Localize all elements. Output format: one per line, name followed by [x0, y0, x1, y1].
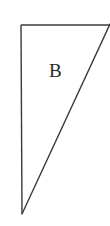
region-label-b: B	[49, 61, 62, 80]
figure-background	[0, 0, 110, 226]
triangle-svg-canvas	[0, 0, 110, 226]
triangle-diagram: B	[0, 0, 110, 226]
left-vertical-edge	[21, 25, 22, 214]
